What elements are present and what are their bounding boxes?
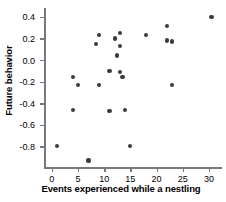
y-axis-line [44, 8, 46, 168]
y-tick: -0.2 [40, 82, 44, 83]
data-point [209, 15, 213, 19]
y-tick-label: -0.8 [19, 142, 35, 152]
x-tick [104, 168, 105, 172]
data-point [76, 83, 80, 87]
data-point [107, 69, 111, 73]
data-point [97, 83, 101, 87]
data-point [120, 75, 124, 79]
y-tick-label: 0.2 [22, 34, 35, 44]
data-point [128, 144, 132, 148]
data-point [118, 31, 122, 35]
y-tick: 0.2 [40, 38, 44, 39]
y-tick: -0.4 [40, 103, 44, 104]
y-tick: -0.8 [40, 146, 44, 147]
data-point [55, 144, 59, 148]
x-tick [209, 168, 210, 172]
y-axis-title: Future behavior [0, 0, 16, 160]
data-point [86, 158, 90, 162]
data-point [165, 38, 169, 42]
y-axis-title-text: Future behavior [3, 45, 14, 115]
data-point [170, 39, 174, 43]
y-tick-label: -0.4 [19, 99, 35, 109]
x-tick [52, 168, 53, 172]
data-point [123, 108, 127, 112]
x-axis-title: Events experienced while a nestling [16, 183, 226, 194]
x-tick [78, 168, 79, 172]
x-tick [130, 168, 131, 172]
data-point [165, 24, 169, 28]
plot-area: 0.40.20.0-0.2-0.4-0.6-0.8 051015202530 [44, 8, 222, 168]
scatter-plot-figure: Future behavior 0.40.20.0-0.2-0.4-0.6-0.… [0, 0, 226, 202]
y-tick-label: -0.2 [19, 77, 35, 87]
data-point [97, 33, 101, 37]
x-axis-line [44, 167, 222, 169]
data-point [118, 44, 122, 48]
data-point [144, 33, 148, 37]
data-point [71, 75, 75, 79]
y-tick: 0.0 [40, 60, 44, 61]
x-tick [157, 168, 158, 172]
data-point [94, 42, 98, 46]
y-tick-label: 0.0 [22, 56, 35, 66]
data-point [115, 53, 119, 57]
y-tick-label: 0.4 [22, 12, 35, 22]
data-point [170, 83, 174, 87]
data-point [71, 108, 75, 112]
y-tick-label: -0.6 [19, 120, 35, 130]
y-tick: -0.6 [40, 125, 44, 126]
x-tick [183, 168, 184, 172]
data-point [118, 70, 122, 74]
y-tick: 0.4 [40, 17, 44, 18]
data-point [107, 109, 111, 113]
